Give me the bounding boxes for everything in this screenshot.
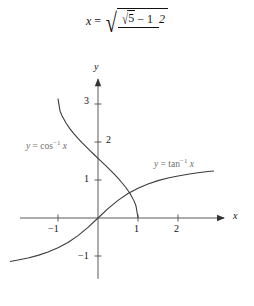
arccos-label-exponent: −1 [53,139,60,147]
y-axis-arrowhead [95,78,101,86]
arccos-label-arg: x [63,141,67,151]
y-tick-label-2: 2 [106,134,111,145]
arccos-label-fn: cos [40,141,53,151]
arctan-label-arg: x [190,159,194,169]
curve-arctan [10,171,214,262]
y-tick-label--1: −1 [78,250,89,261]
x-tick-label-2: 2 [174,223,179,234]
x-tick-label--1: −1 [48,223,59,234]
arctan-label-fn: tan [168,159,180,169]
arctan-label-exponent: −1 [180,157,187,165]
axes-group [20,78,225,279]
y-axis-label: y [94,61,98,72]
arccos-label-equals: = [33,141,38,151]
graph-canvas [0,0,254,306]
x-axis-arrowhead [217,215,225,221]
x-axis-label: x [233,210,237,221]
curve-label-arctan: y = tan−1 x [154,157,194,169]
arctan-label-y: y [154,159,158,169]
arctan-label-equals: = [161,159,166,169]
arccos-label-y: y [26,141,30,151]
curve-label-arccos: y = cos−1 x [26,139,67,151]
y-tick-label-1: 1 [84,173,89,184]
x-tick-label-1: 1 [134,223,139,234]
y-tick-label-3: 3 [84,95,89,106]
